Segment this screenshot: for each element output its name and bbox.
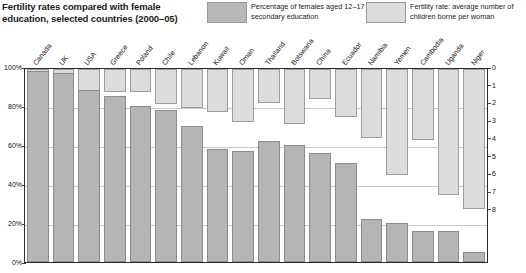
fertility-bar-chile: [155, 69, 177, 104]
chart-header: Fertility rates compared with female edu…: [0, 0, 526, 28]
x-axis-label-cambodia: Cambodia: [417, 36, 444, 67]
y-axis-right-tick-label: 7: [492, 188, 506, 195]
education-bar-greece: [104, 96, 126, 262]
education-bar-thailand: [258, 141, 280, 262]
bar-slot-china: [307, 69, 333, 262]
y-axis-left-tick-label: 0%: [0, 259, 22, 266]
x-axis-label-namibia: Namibia: [366, 41, 389, 67]
x-axis-category-labels: CanadaUKUSAGreecePolandChileLebanonKuwai…: [24, 30, 488, 67]
education-bar-uk: [53, 73, 75, 262]
bar-slot-niger: [461, 69, 487, 262]
bar-slot-chile: [153, 69, 179, 262]
bar-slot-usa: [76, 69, 102, 262]
education-bar-kuwait: [207, 149, 229, 262]
legend-label-fertility: Fertility rate: average number of childr…: [410, 2, 526, 21]
x-axis-label-kuwait: Kuwait: [211, 44, 231, 67]
page-title: Fertility rates compared with female edu…: [2, 1, 202, 25]
education-bar-botswana: [284, 145, 306, 262]
x-axis-label-greece: Greece: [108, 43, 130, 67]
x-axis-label-usa: USA: [82, 50, 98, 67]
bar-slot-uganda: [436, 69, 462, 262]
bar-slot-poland: [128, 69, 154, 262]
y-axis-left-tick-label: 80%: [0, 103, 22, 110]
x-axis-label-uganda: Uganda: [443, 42, 466, 67]
y-axis-right-tick-label: 4: [492, 135, 506, 142]
bar-slot-namibia: [359, 69, 385, 262]
x-axis-label-uk: UK: [57, 54, 70, 67]
education-bar-oman: [232, 151, 254, 262]
fertility-bar-uganda: [438, 69, 460, 195]
y-axis-right-tick-label: 1: [492, 82, 506, 89]
fertility-bar-cambodia: [412, 69, 434, 140]
bar-slot-botswana: [282, 69, 308, 262]
y-axis-right-tick-label: 8: [492, 206, 506, 213]
x-axis-label-chile: Chile: [160, 49, 177, 67]
y-axis-right-tick-label: 5: [492, 153, 506, 160]
y-axis-right-tick-label: 3: [492, 117, 506, 124]
y-axis-right-tick-label: 6: [492, 170, 506, 177]
y-axis-left-tick-label: 40%: [0, 181, 22, 188]
x-axis-label-niger: Niger: [469, 48, 487, 67]
education-bar-ecuador: [335, 163, 357, 262]
fertility-bar-niger: [463, 69, 485, 209]
fertility-bar-ecuador: [335, 69, 357, 117]
fertility-bar-lebanon: [181, 69, 203, 108]
legend-swatch-education: [207, 2, 247, 23]
legend-label-education: Percentage of females aged 12–17 in seco…: [251, 2, 376, 21]
x-axis-label-lebanon: Lebanon: [185, 39, 209, 67]
fertility-bar-kuwait: [207, 69, 229, 112]
y-axis-right-tick-label: 2: [492, 99, 506, 106]
fertility-bar-greece: [104, 69, 126, 92]
legend-swatch-fertility: [366, 2, 406, 23]
x-axis-label-china: China: [314, 47, 333, 67]
fertility-bar-poland: [130, 69, 152, 92]
education-bar-lebanon: [181, 126, 203, 263]
x-axis-label-thailand: Thailand: [263, 40, 287, 67]
bar-slot-thailand: [256, 69, 282, 262]
x-axis-label-poland: Poland: [134, 44, 155, 67]
bar-slot-ecuador: [333, 69, 359, 262]
bar-group: [25, 69, 487, 262]
education-bar-cambodia: [412, 231, 434, 262]
education-bar-poland: [130, 106, 152, 262]
y-axis-left-tick-label: 20%: [0, 220, 22, 227]
bar-slot-uk: [51, 69, 77, 262]
fertility-bar-oman: [232, 69, 254, 122]
education-bar-canada: [27, 71, 49, 262]
bar-slot-canada: [25, 69, 51, 262]
x-axis-label-yemen: Yemen: [392, 44, 413, 67]
x-axis-label-ecuador: Ecuador: [340, 40, 364, 67]
education-bar-niger: [463, 252, 485, 262]
bar-slot-lebanon: [179, 69, 205, 262]
chart-plot-area: [24, 68, 488, 263]
fertility-bar-namibia: [361, 69, 383, 138]
education-bar-namibia: [361, 219, 383, 262]
bar-slot-greece: [102, 69, 128, 262]
bar-slot-oman: [230, 69, 256, 262]
bar-slot-kuwait: [205, 69, 231, 262]
fertility-bar-yemen: [386, 69, 408, 175]
education-bar-china: [309, 153, 331, 262]
fertility-bar-botswana: [284, 69, 306, 124]
education-bar-yemen: [386, 223, 408, 262]
y-axis-right-tick-label: 0: [492, 64, 506, 71]
education-bar-usa: [78, 90, 100, 262]
y-axis-left-tick-label: 100%: [0, 64, 22, 71]
y-axis-left-tick-label: 60%: [0, 142, 22, 149]
x-axis-label-canada: Canada: [31, 42, 54, 67]
x-axis-label-oman: Oman: [237, 46, 256, 67]
education-bar-uganda: [438, 231, 460, 262]
x-axis-label-botswana: Botswana: [289, 37, 316, 67]
bar-slot-cambodia: [410, 69, 436, 262]
fertility-bar-china: [309, 69, 331, 99]
fertility-bar-thailand: [258, 69, 280, 103]
education-bar-chile: [155, 110, 177, 262]
bar-slot-yemen: [384, 69, 410, 262]
